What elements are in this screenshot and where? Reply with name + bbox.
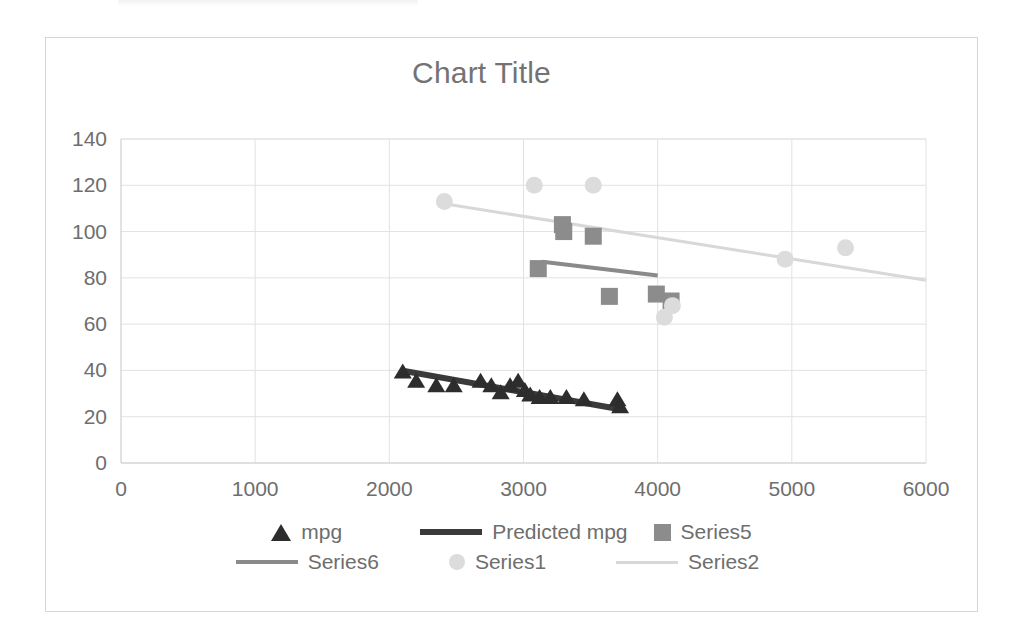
marker-series1[interactable]	[526, 177, 543, 194]
marker-series1[interactable]	[585, 177, 602, 194]
x-axis-tick-label: 0	[115, 477, 127, 500]
legend-label: Series2	[688, 550, 759, 574]
light-gray-icon	[616, 561, 678, 564]
x-axis-tick-label: 1000	[232, 477, 279, 500]
marker-series1[interactable]	[837, 239, 854, 256]
y-axis-tick-label: 120	[72, 173, 107, 196]
legend-item-mpg[interactable]: mpg	[271, 520, 342, 544]
chart-frame[interactable]: Chart Title 020406080100120140 010002000…	[45, 37, 978, 612]
x-axis-tick-label: 3000	[500, 477, 547, 500]
legend-item-series1[interactable]: Series1	[449, 550, 546, 574]
triangle-icon	[271, 524, 291, 541]
y-axis-tick-label: 60	[84, 312, 107, 335]
legend-item-predicted-mpg[interactable]: Predicted mpg	[420, 520, 627, 544]
x-axis-tick-label: 5000	[768, 477, 815, 500]
marker-series5[interactable]	[555, 223, 572, 240]
marker-series1[interactable]	[664, 297, 681, 314]
y-axis-tick-labels: 020406080100120140	[72, 127, 107, 474]
x-axis-tick-labels: 0100020003000400050006000	[115, 477, 949, 500]
scan-edge-artifact	[118, 0, 418, 5]
y-axis-tick-label: 80	[84, 266, 107, 289]
series-markers	[394, 177, 854, 413]
y-axis-tick-label: 0	[95, 451, 107, 474]
thick-dark-icon	[420, 529, 482, 535]
legend-row-1: mpgPredicted mpgSeries5	[271, 520, 751, 544]
legend-item-series6[interactable]: Series6	[236, 550, 379, 574]
x-axis-tick-label: 4000	[634, 477, 681, 500]
chart-legend[interactable]: mpgPredicted mpgSeries5 Series6Series1Se…	[46, 520, 977, 574]
legend-label: mpg	[301, 520, 342, 544]
medium-gray-icon	[236, 560, 298, 564]
y-axis-tick-label: 140	[72, 127, 107, 150]
legend-item-series5[interactable]: Series5	[654, 520, 752, 544]
trendline-series6[interactable]	[542, 262, 657, 276]
legend-label: Predicted mpg	[492, 520, 627, 544]
marker-series5[interactable]	[585, 228, 602, 245]
marker-series5[interactable]	[530, 260, 547, 277]
marker-series1[interactable]	[777, 251, 794, 268]
trendline-series2[interactable]	[444, 204, 926, 280]
legend-label: Series6	[308, 550, 379, 574]
y-axis-tick-label: 40	[84, 358, 107, 381]
y-axis-tick-label: 20	[84, 405, 107, 428]
marker-series5[interactable]	[601, 288, 618, 305]
marker-series1[interactable]	[436, 193, 453, 210]
square-icon	[654, 524, 671, 541]
legend-item-series2[interactable]: Series2	[616, 550, 759, 574]
x-axis-tick-label: 6000	[903, 477, 950, 500]
marker-series5[interactable]	[648, 286, 665, 303]
x-axis-tick-label: 2000	[366, 477, 413, 500]
legend-label: Series5	[681, 520, 752, 544]
gridlines	[121, 139, 926, 463]
legend-label: Series1	[475, 550, 546, 574]
legend-row-2: Series6Series1Series2	[236, 550, 760, 574]
circle-icon	[449, 554, 465, 570]
y-axis-tick-label: 100	[72, 220, 107, 243]
